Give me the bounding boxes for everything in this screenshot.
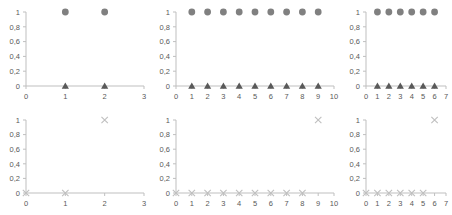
y-tick-label: 1 <box>166 116 170 125</box>
y-tick-label: 0 <box>166 189 170 198</box>
y-tick-label: 0,2 <box>10 174 20 183</box>
x-tick-label: 1 <box>375 92 379 101</box>
x-tick-label: 5 <box>253 199 257 208</box>
chart-grid: 00,20,40,60,810123 00,20,40,60,810123456… <box>0 0 452 215</box>
x-tick-label: 4 <box>410 199 414 208</box>
plot-area: 00,20,40,60,810123 <box>0 108 150 215</box>
panel-bottom-left: 00,20,40,60,810123 <box>0 108 150 215</box>
data-point-circle <box>408 9 415 16</box>
y-tick-label: 0,4 <box>160 52 170 61</box>
data-point-circle <box>252 9 259 16</box>
x-tick-label: 0 <box>364 92 368 101</box>
y-tick-label: 1 <box>16 116 20 125</box>
y-tick-label: 0,8 <box>10 130 20 139</box>
plot-area: 00,20,40,60,810123 <box>0 0 150 108</box>
y-tick-label: 0,8 <box>350 23 360 32</box>
x-tick-label: 7 <box>285 199 289 208</box>
x-tick-label: 3 <box>221 92 225 101</box>
y-tick-label: 0,4 <box>10 160 20 169</box>
x-tick-label: 0 <box>174 92 178 101</box>
y-tick-label: 1 <box>356 116 360 125</box>
x-tick-label: 4 <box>237 199 241 208</box>
data-point-circle <box>267 9 274 16</box>
y-tick-label: 0,6 <box>350 145 360 154</box>
data-point-circle <box>397 9 404 16</box>
x-tick-label: 6 <box>269 92 273 101</box>
x-tick-label: 2 <box>103 199 107 208</box>
data-point-circle <box>431 9 438 16</box>
data-point-circle <box>204 9 211 16</box>
x-tick-label: 2 <box>206 92 210 101</box>
panel-top-left: 00,20,40,60,810123 <box>0 0 150 108</box>
y-tick-label: 0,8 <box>10 23 20 32</box>
x-tick-label: 8 <box>300 199 304 208</box>
y-tick-label: 0,4 <box>10 52 20 61</box>
data-point-circle <box>236 9 243 16</box>
y-tick-label: 0,4 <box>350 160 360 169</box>
x-tick-label: 4 <box>237 92 241 101</box>
panel-bottom-middle: 00,20,40,60,81012345678910 <box>150 108 340 215</box>
y-tick-label: 1 <box>356 8 360 17</box>
y-tick-label: 0 <box>356 189 360 198</box>
x-tick-label: 6 <box>432 199 436 208</box>
x-tick-label: 3 <box>398 199 402 208</box>
panel-top-right: 00,20,40,60,8101234567 <box>340 0 452 108</box>
y-tick-label: 0,2 <box>10 67 20 76</box>
x-tick-label: 3 <box>142 199 146 208</box>
x-tick-label: 1 <box>190 199 194 208</box>
x-tick-label: 2 <box>387 199 391 208</box>
y-tick-label: 0,6 <box>160 145 170 154</box>
data-point-x <box>431 117 437 123</box>
x-tick-label: 7 <box>444 199 448 208</box>
data-point-circle <box>315 9 322 16</box>
y-tick-label: 0,2 <box>160 174 170 183</box>
x-tick-label: 2 <box>206 199 210 208</box>
panel-bottom-right: 00,20,40,60,8101234567 <box>340 108 452 215</box>
x-tick-label: 6 <box>269 199 273 208</box>
y-tick-label: 0,2 <box>350 67 360 76</box>
plot-area: 00,20,40,60,81012345678910 <box>150 108 340 215</box>
x-tick-label: 5 <box>421 199 425 208</box>
data-point-circle <box>299 9 306 16</box>
plot-area: 00,20,40,60,8101234567 <box>340 0 452 108</box>
y-tick-label: 0 <box>356 82 360 91</box>
y-tick-label: 0 <box>16 189 20 198</box>
x-tick-label: 7 <box>444 92 448 101</box>
x-tick-label: 3 <box>398 92 402 101</box>
y-tick-label: 0,8 <box>160 23 170 32</box>
plot-area: 00,20,40,60,81012345678910 <box>150 0 340 108</box>
panel-top-middle: 00,20,40,60,81012345678910 <box>150 0 340 108</box>
data-point-circle <box>188 9 195 16</box>
y-tick-label: 0,6 <box>10 145 20 154</box>
x-tick-label: 6 <box>432 92 436 101</box>
x-tick-label: 3 <box>142 92 146 101</box>
x-tick-label: 10 <box>330 92 338 101</box>
data-point-circle <box>283 9 290 16</box>
x-tick-label: 2 <box>387 92 391 101</box>
x-tick-label: 0 <box>24 92 28 101</box>
x-tick-label: 0 <box>364 199 368 208</box>
y-tick-label: 0,4 <box>160 160 170 169</box>
y-tick-label: 0,4 <box>350 52 360 61</box>
x-tick-label: 10 <box>330 199 338 208</box>
x-tick-label: 7 <box>285 92 289 101</box>
x-tick-label: 1 <box>63 199 67 208</box>
data-point-circle <box>220 9 227 16</box>
y-tick-label: 0 <box>16 82 20 91</box>
y-tick-label: 0,2 <box>160 67 170 76</box>
x-tick-label: 0 <box>174 199 178 208</box>
x-tick-label: 9 <box>316 199 320 208</box>
y-tick-label: 0 <box>166 82 170 91</box>
x-tick-label: 9 <box>316 92 320 101</box>
data-point-circle <box>385 9 392 16</box>
x-tick-label: 4 <box>410 92 414 101</box>
y-tick-label: 0,8 <box>160 130 170 139</box>
data-point-x <box>315 117 321 123</box>
data-point-circle <box>420 9 427 16</box>
plot-area: 00,20,40,60,8101234567 <box>340 108 452 215</box>
y-tick-label: 0,6 <box>10 37 20 46</box>
data-point-x <box>101 117 107 123</box>
x-tick-label: 0 <box>24 199 28 208</box>
x-tick-label: 2 <box>103 92 107 101</box>
x-tick-label: 1 <box>375 199 379 208</box>
